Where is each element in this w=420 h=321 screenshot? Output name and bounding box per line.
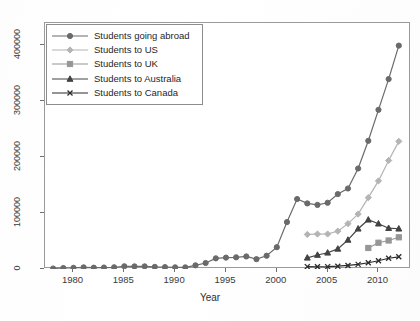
data-point bbox=[264, 253, 269, 258]
data-point bbox=[305, 201, 310, 206]
data-point bbox=[304, 231, 310, 237]
data-point bbox=[183, 265, 188, 269]
data-point bbox=[376, 107, 381, 112]
y-tick-label: 100000 bbox=[12, 195, 22, 229]
data-point bbox=[314, 231, 320, 237]
legend-item-label: Students to US bbox=[94, 44, 158, 56]
data-point bbox=[295, 196, 300, 201]
x-tick-label: 2000 bbox=[251, 274, 301, 285]
legend-item-label: Students to UK bbox=[94, 58, 158, 70]
data-point bbox=[386, 157, 392, 163]
x-tick-label: 2010 bbox=[352, 274, 402, 285]
data-point bbox=[274, 245, 279, 250]
legend-marker-icon bbox=[51, 30, 89, 42]
series-line bbox=[368, 237, 399, 248]
x-tick-mark bbox=[72, 268, 73, 272]
data-point bbox=[396, 138, 402, 144]
data-point bbox=[325, 200, 330, 205]
data-point bbox=[142, 264, 147, 269]
data-point bbox=[193, 263, 198, 268]
data-point bbox=[132, 264, 137, 269]
series-line bbox=[307, 257, 399, 267]
data-point bbox=[162, 265, 167, 269]
data-point bbox=[366, 138, 371, 143]
chart-figure: 0100000200000300000400000 19801985199019… bbox=[0, 0, 420, 321]
legend-item-1[interactable]: Students going abroad bbox=[47, 29, 202, 43]
chart-legend: Students going abroadStudents to USStude… bbox=[46, 24, 203, 105]
y-tick-mark bbox=[40, 156, 44, 157]
data-point bbox=[365, 195, 371, 201]
y-tick-mark bbox=[40, 100, 44, 101]
data-point bbox=[112, 265, 117, 269]
data-point bbox=[101, 265, 106, 269]
y-tick-label: 200000 bbox=[12, 139, 22, 173]
series-3 bbox=[366, 235, 402, 251]
x-tick-mark bbox=[377, 268, 378, 272]
legend-item-label: Students to Canada bbox=[94, 87, 178, 99]
legend-marker-icon bbox=[51, 73, 89, 85]
data-point bbox=[91, 265, 96, 269]
y-tick-mark bbox=[40, 212, 44, 213]
data-point bbox=[356, 166, 361, 171]
y-tick-mark bbox=[40, 44, 44, 45]
data-point bbox=[366, 245, 371, 250]
data-point bbox=[213, 256, 218, 261]
data-point bbox=[284, 219, 289, 224]
legend-marker-icon bbox=[51, 87, 89, 99]
data-point bbox=[345, 186, 350, 191]
x-tick-label: 1990 bbox=[149, 274, 199, 285]
data-point bbox=[51, 266, 56, 269]
data-point bbox=[152, 264, 157, 269]
legend-item-3[interactable]: Students to UK bbox=[47, 57, 202, 71]
x-tick-mark bbox=[327, 268, 328, 272]
legend-item-label: Students going abroad bbox=[94, 30, 190, 42]
legend-item-2[interactable]: Students to US bbox=[47, 43, 202, 57]
data-point bbox=[386, 238, 391, 243]
data-point bbox=[61, 265, 66, 269]
y-tick-label: 400000 bbox=[12, 27, 22, 61]
data-point bbox=[223, 255, 228, 260]
legend-item-4[interactable]: Students to Australia bbox=[47, 72, 202, 86]
data-point bbox=[254, 257, 259, 262]
data-point bbox=[325, 231, 331, 237]
y-tick-label: 0 bbox=[12, 251, 22, 285]
x-tick-mark bbox=[174, 268, 175, 272]
x-tick-mark bbox=[123, 268, 124, 272]
x-tick-mark bbox=[276, 268, 277, 272]
legend-item-5[interactable]: Students to Canada bbox=[47, 86, 202, 100]
x-tick-mark bbox=[225, 268, 226, 272]
y-tick-label: 300000 bbox=[12, 83, 22, 117]
legend-marker-icon bbox=[51, 44, 89, 56]
legend-marker-icon bbox=[51, 58, 89, 70]
data-point bbox=[81, 265, 86, 269]
series-line bbox=[307, 220, 399, 258]
data-point bbox=[396, 235, 401, 240]
data-point bbox=[365, 217, 371, 223]
y-tick-mark bbox=[40, 268, 44, 269]
series-2 bbox=[304, 138, 402, 237]
data-point bbox=[244, 254, 249, 259]
data-point bbox=[396, 43, 401, 48]
data-point bbox=[315, 202, 320, 207]
legend-item-label: Students to Australia bbox=[94, 73, 181, 85]
data-point bbox=[375, 178, 381, 184]
x-tick-label: 1980 bbox=[47, 274, 97, 285]
data-point bbox=[203, 260, 208, 265]
series-line bbox=[307, 141, 399, 234]
data-point bbox=[376, 240, 381, 245]
x-tick-label: 1995 bbox=[200, 274, 250, 285]
data-point bbox=[386, 76, 391, 81]
data-point bbox=[234, 255, 239, 260]
x-axis-title: Year bbox=[0, 292, 420, 303]
x-tick-label: 1985 bbox=[98, 274, 148, 285]
data-point bbox=[335, 191, 340, 196]
x-tick-label: 2005 bbox=[302, 274, 352, 285]
